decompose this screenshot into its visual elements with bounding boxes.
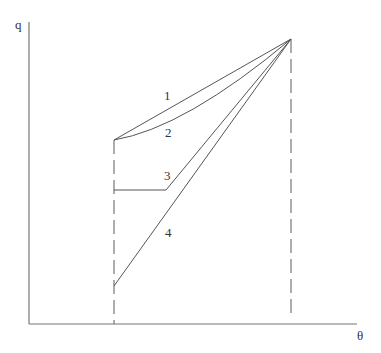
curve-2-label: 2 [165, 125, 172, 140]
x-axis-label: θ [357, 328, 363, 343]
curve-1-label: 1 [164, 88, 171, 103]
curve-3 [114, 39, 291, 190]
curve-4 [114, 39, 291, 286]
curve-1 [114, 39, 291, 140]
curve-3-label: 3 [164, 168, 171, 183]
y-axis-label: q [15, 17, 22, 32]
curve-4-label: 4 [165, 225, 172, 240]
diagram-canvas: q θ 1 2 3 4 [0, 0, 381, 353]
